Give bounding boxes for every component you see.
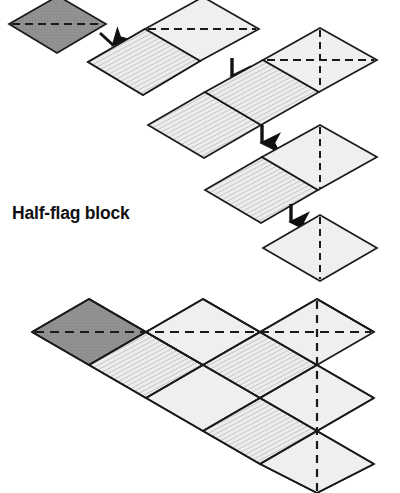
half-flag-block-diagram [0, 0, 400, 493]
figure-canvas: Half-flag block [0, 0, 400, 493]
page-title: Half-flag block [12, 203, 130, 224]
